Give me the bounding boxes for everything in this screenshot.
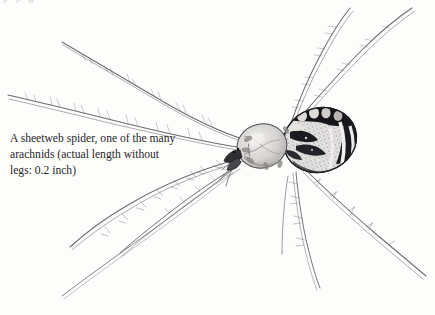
caption-line-3: legs: 0.2 inch) <box>10 163 205 179</box>
leg-right-rear <box>289 172 320 290</box>
figure-page: p p g <box>0 0 435 315</box>
leg-right-rear-long <box>282 176 288 254</box>
spider-body <box>224 98 365 182</box>
spider-cephalothorax <box>233 119 291 172</box>
leg-right-upper <box>296 8 415 124</box>
spider-abdomen <box>275 98 365 182</box>
caption-line-2: arachnids (actual length without <box>10 147 205 163</box>
spider-eye <box>237 148 239 150</box>
figure-caption: A sheetweb spider, one of the many arach… <box>10 131 205 179</box>
caption-line-1: A sheetweb spider, one of the many <box>10 131 205 147</box>
spider-eye <box>233 151 236 154</box>
spider-chelicerae <box>224 148 242 170</box>
leg-right-lower <box>303 170 426 279</box>
leg-left-front <box>62 42 250 144</box>
